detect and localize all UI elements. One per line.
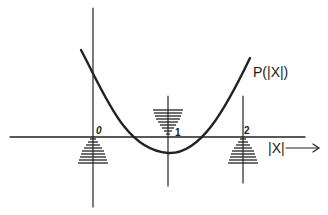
hatched-triangle-0 xyxy=(78,139,108,163)
axis-label: |X| xyxy=(268,140,285,156)
hatched-triangle-2 xyxy=(228,139,258,163)
tick-label-2: 2 xyxy=(244,125,250,136)
probability-diagram: 0 1 2 P(|X|) |X| xyxy=(0,0,328,215)
tick-label-0: 0 xyxy=(96,125,102,136)
curve-label: P(|X|) xyxy=(253,64,288,80)
tick-label-1: 1 xyxy=(175,127,181,138)
